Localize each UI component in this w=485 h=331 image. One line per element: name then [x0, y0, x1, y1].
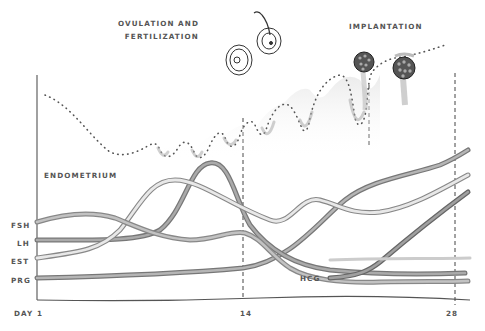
hormone-curves	[37, 150, 470, 282]
egg-illustration	[226, 12, 281, 75]
x-label-day14: 14	[240, 309, 252, 318]
implantation-label: IMPLANTATION	[349, 22, 423, 31]
endometrium-label: ENDOMETRIUM	[44, 171, 117, 180]
hcg-curve	[330, 192, 468, 278]
y-label-lh: LH	[17, 239, 30, 248]
ovulation-label: OVULATION AND FERTILIZATION	[118, 17, 199, 43]
y-label-est: EST	[11, 257, 29, 266]
hcg-label: HCG	[300, 274, 321, 283]
ovulation-label-line2: FERTILIZATION	[118, 30, 199, 43]
est-flat-line	[330, 258, 470, 260]
y-label-fsh: FSH	[11, 221, 30, 230]
x-axis	[37, 296, 470, 300]
menstrual-cycle-diagram	[0, 0, 485, 331]
x-label-day28: 28	[446, 309, 458, 318]
blastocyst-illustration	[354, 52, 415, 110]
x-label-day1: DAY 1	[14, 309, 43, 318]
endometrium-shading	[150, 75, 380, 160]
ovulation-label-line1: OVULATION AND	[118, 17, 199, 30]
y-label-prg: PRG	[11, 276, 31, 285]
